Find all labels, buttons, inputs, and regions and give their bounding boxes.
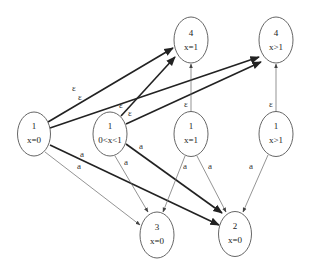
node-guard: x=0 xyxy=(27,135,42,145)
edge-label-a: a xyxy=(139,141,143,151)
edge-label-eps: ε xyxy=(72,83,76,93)
node-guard: x=1 xyxy=(184,42,198,52)
edge-label-eps: ε xyxy=(119,100,123,110)
node-guard: 0<x<1 xyxy=(98,135,122,145)
node-4-x-eq-1: 4 x=1 xyxy=(174,17,208,63)
edge-1mid-to-2x0 xyxy=(126,144,222,213)
edge-label-a: a xyxy=(124,157,128,167)
edge-label-a: a xyxy=(208,161,212,171)
node-location: 1 xyxy=(189,121,194,131)
node-location: 1 xyxy=(32,121,37,131)
node-location: 4 xyxy=(189,28,194,38)
node-1-x-eq-1: 1 x=1 xyxy=(174,112,208,157)
edge-label-eps: ε xyxy=(128,108,132,118)
edge-1mid-to-3x0 xyxy=(115,156,148,212)
node-1-x-gt-1: 1 x>1 xyxy=(259,112,293,157)
edge-label-eps: ε xyxy=(78,92,82,102)
edge-label-a: a xyxy=(80,149,84,159)
edge-label-a: a xyxy=(77,161,81,171)
node-guard: x=0 xyxy=(150,236,165,246)
edges xyxy=(45,48,276,225)
node-2-x-eq-0: 2 x=0 xyxy=(219,212,252,257)
edge-1xg1-to-2x0 xyxy=(243,155,268,212)
edge-label-a: a xyxy=(249,161,253,171)
node-3-x-eq-0: 3 x=0 xyxy=(140,212,174,258)
node-guard: x=0 xyxy=(228,235,243,245)
node-1-x-between-0-1: 1 0<x<1 xyxy=(93,112,127,156)
node-guard: x=1 xyxy=(184,135,198,145)
edge-label-eps: ε xyxy=(269,99,273,109)
node-location: 1 xyxy=(108,121,113,131)
node-location: 2 xyxy=(233,221,238,231)
edge-label-a: a xyxy=(183,161,187,171)
node-location: 4 xyxy=(274,28,279,38)
node-1-x-eq-0: 1 x=0 xyxy=(18,112,51,156)
node-guard: x>1 xyxy=(269,42,283,52)
automaton-diagram: ε ε ε ε ε ε a a a a a a a 4 x=1 4 x>1 1 … xyxy=(0,0,309,269)
node-location: 1 xyxy=(274,121,279,131)
node-location: 3 xyxy=(155,222,160,232)
nodes: 4 x=1 4 x>1 1 x=0 1 0<x<1 1 x=1 1 x>1 xyxy=(18,17,294,258)
node-4-x-gt-1: 4 x>1 xyxy=(259,17,293,63)
edge-1x0-to-2x0 xyxy=(50,145,219,225)
node-guard: x>1 xyxy=(269,135,283,145)
edge-label-eps: ε xyxy=(184,99,188,109)
